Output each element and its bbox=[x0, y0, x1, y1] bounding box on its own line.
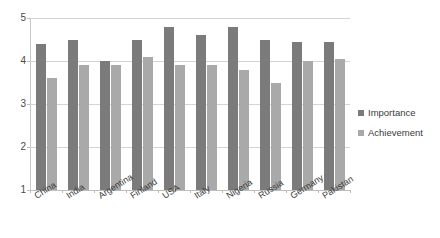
x-axis-tick-mark bbox=[126, 190, 127, 193]
bar-group bbox=[286, 18, 318, 190]
x-axis-tick-mark bbox=[222, 190, 223, 193]
bar-group bbox=[190, 18, 222, 190]
x-axis-tick-mark bbox=[30, 190, 31, 193]
bar-importance-argentina bbox=[100, 61, 110, 190]
y-axis-tick-label: 2 bbox=[4, 142, 26, 152]
y-axis-tick-mark bbox=[27, 61, 30, 62]
y-axis-tick-label: 1 bbox=[4, 185, 26, 195]
bar-achievement-russia bbox=[271, 83, 281, 191]
bar-importance-russia bbox=[260, 40, 270, 191]
x-axis-tick-mark bbox=[318, 190, 319, 193]
bar-achievement-germany bbox=[303, 61, 313, 190]
bar-group bbox=[126, 18, 158, 190]
legend-item-label: Achievement bbox=[368, 128, 423, 138]
y-axis-tick-label: 4 bbox=[4, 56, 26, 66]
bar-achievement-china bbox=[47, 78, 57, 190]
bar-importance-nigeria bbox=[228, 27, 238, 190]
bar-achievement-nigeria bbox=[239, 70, 249, 190]
x-axis-tick-mark bbox=[158, 190, 159, 193]
y-axis-tick-mark bbox=[27, 147, 30, 148]
bar-achievement-finland bbox=[143, 57, 153, 190]
bar-importance-china bbox=[36, 44, 46, 190]
bar-importance-usa bbox=[164, 27, 174, 190]
legend-item: Importance bbox=[358, 108, 438, 118]
x-axis-tick-mark bbox=[286, 190, 287, 193]
bar-group bbox=[62, 18, 94, 190]
x-axis-tick-mark bbox=[62, 190, 63, 193]
bar-group bbox=[158, 18, 190, 190]
y-axis: 12345 bbox=[0, 18, 26, 190]
legend-item: Achievement bbox=[358, 128, 438, 138]
bar-group bbox=[94, 18, 126, 190]
bar-importance-italy bbox=[196, 35, 206, 190]
legend-item-label: Importance bbox=[368, 108, 416, 118]
x-axis-tick-mark bbox=[254, 190, 255, 193]
bar-group bbox=[254, 18, 286, 190]
bar-group bbox=[222, 18, 254, 190]
x-axis-tick-mark bbox=[94, 190, 95, 193]
bar-importance-pakistan bbox=[324, 42, 334, 190]
bar-group bbox=[30, 18, 62, 190]
bar-achievement-pakistan bbox=[335, 59, 345, 190]
bar-achievement-italy bbox=[207, 65, 217, 190]
bar-chart: 12345 ChinaIndiaArgentinaFinlandUSAItaly… bbox=[0, 0, 440, 238]
y-axis-tick-mark bbox=[27, 104, 30, 105]
bar-achievement-india bbox=[79, 65, 89, 190]
y-axis-tick-mark bbox=[27, 18, 30, 19]
bar-importance-india bbox=[68, 40, 78, 191]
bar-achievement-usa bbox=[175, 65, 185, 190]
bar-importance-finland bbox=[132, 40, 142, 191]
legend-swatch-icon bbox=[358, 110, 364, 116]
legend-swatch-icon bbox=[358, 130, 364, 136]
y-axis-tick-label: 5 bbox=[4, 13, 26, 23]
y-axis-tick-label: 3 bbox=[4, 99, 26, 109]
x-axis-tick-mark bbox=[190, 190, 191, 193]
x-axis-tick-mark bbox=[350, 190, 351, 193]
chart-legend: ImportanceAchievement bbox=[358, 108, 438, 148]
bar-group bbox=[318, 18, 350, 190]
plot-area bbox=[30, 18, 350, 190]
bar-achievement-argentina bbox=[111, 65, 121, 190]
bar-importance-germany bbox=[292, 42, 302, 190]
